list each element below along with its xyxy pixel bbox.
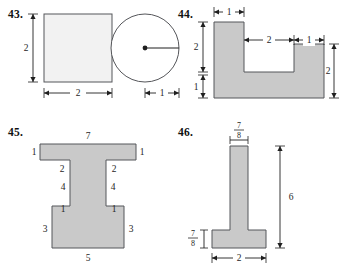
figure-45-number: 45. (8, 126, 23, 138)
dim-shoulder-left-label: 2 (60, 164, 65, 174)
dim-right-leg-height: 2 (326, 44, 339, 98)
figure-46-number: 46. (178, 126, 193, 138)
dim-base-left-height-label: 3 (43, 224, 48, 234)
figure-46: 46. 7 8 6 (172, 120, 340, 266)
i-beam-shape (40, 144, 136, 248)
dim-stem-left-height-label: 4 (61, 182, 66, 192)
dim-left-leg-width: 1 (214, 6, 244, 18)
figure-44-drawing: 1 2 1 (172, 0, 340, 118)
dim-base-height: 1 (194, 75, 208, 98)
dim-shoulder-right-label: 2 (112, 164, 117, 174)
figure-43-drawing: 2 2 1 (0, 0, 176, 118)
dim-square-height: 2 (24, 14, 38, 82)
dim-lower-shoulder-right-label: 1 (112, 204, 117, 214)
dim-stem-width-denominator: 8 (237, 131, 241, 140)
figure-43-number: 43. (8, 8, 23, 20)
dim-base-thickness-denominator: 8 (191, 239, 195, 248)
dim-base-thickness: 7 8 (188, 229, 208, 248)
dim-stem-width-numerator: 7 (237, 121, 241, 130)
dim-square-height-label: 2 (24, 43, 29, 53)
figure-44-number: 44. (178, 8, 193, 20)
figure-45-drawing: 7 1 1 2 2 4 4 1 1 3 3 5 (0, 120, 176, 266)
figure-44: 44. 1 2 (172, 0, 340, 118)
square-shape (44, 14, 112, 82)
dim-base-thickness-numerator: 7 (191, 229, 195, 238)
dim-base-right-height-label: 3 (129, 224, 134, 234)
dim-right-leg-width-label: 1 (307, 35, 312, 45)
dim-stem-width: 7 8 (230, 121, 248, 144)
figure-45: 45. 7 1 1 2 2 4 4 1 1 3 3 5 (0, 120, 176, 266)
dim-stem-right-height-label: 4 (111, 182, 116, 192)
dim-notch-width: 2 (244, 34, 294, 46)
dim-left-upper-height: 2 (194, 22, 208, 72)
dim-right-leg-height-label: 2 (326, 66, 331, 76)
inverted-t-shape (212, 146, 266, 248)
dim-top-left-thickness-label: 1 (32, 147, 37, 157)
dim-total-height: 6 (275, 146, 294, 248)
dim-base-height-label: 1 (194, 82, 199, 92)
dim-notch-width-label: 2 (267, 35, 272, 45)
dim-lower-shoulder-left-label: 1 (61, 204, 66, 214)
dim-left-upper-height-label: 2 (194, 42, 199, 52)
worksheet-page: 43. 2 (0, 0, 340, 266)
dim-top-width-label: 7 (86, 131, 91, 141)
dim-base-width-label: 2 (237, 253, 242, 263)
dim-square-width: 2 (44, 87, 112, 99)
figure-43: 43. 2 (0, 0, 176, 118)
dim-top-right-thickness-label: 1 (140, 147, 145, 157)
dim-total-height-label: 6 (289, 192, 294, 202)
dim-circle-radius-label: 1 (160, 88, 165, 98)
figure-46-drawing: 7 8 6 7 8 (172, 120, 340, 266)
dim-base-width: 2 (212, 252, 266, 264)
dim-square-width-label: 2 (76, 88, 81, 98)
dim-left-leg-width-label: 1 (227, 7, 232, 17)
dim-base-width-label: 5 (86, 253, 91, 263)
u-shape (214, 22, 324, 98)
